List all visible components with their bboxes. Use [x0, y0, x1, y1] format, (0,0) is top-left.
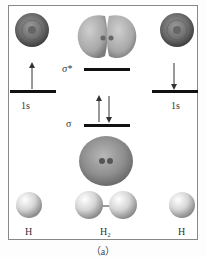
molecule-label: H₂	[100, 227, 111, 237]
bonding-label: σ	[66, 119, 71, 129]
right-electron-down-arrow	[170, 62, 178, 90]
bonding-level	[84, 124, 130, 127]
left-atom-label: H	[25, 227, 32, 237]
left-1s-orbital-sphere	[14, 12, 50, 48]
figure-caption: （a）	[0, 243, 206, 257]
left-1s-level	[10, 90, 56, 93]
bonding-orbital-sphere	[78, 135, 134, 187]
antibonding-level	[84, 68, 130, 71]
antibonding-orbital-lobes	[76, 12, 138, 62]
right-1s-level	[152, 90, 198, 93]
left-electron-up-arrow	[28, 62, 36, 90]
right-atom-label: H	[178, 227, 185, 237]
hydrogen-atoms-row	[0, 190, 206, 222]
bonding-electron-pair-arrows	[95, 95, 113, 123]
left-1s-label: 1s	[21, 101, 30, 111]
right-1s-orbital-sphere	[159, 12, 195, 48]
right-1s-label: 1s	[171, 101, 180, 111]
antibonding-label: σ*	[62, 64, 72, 74]
